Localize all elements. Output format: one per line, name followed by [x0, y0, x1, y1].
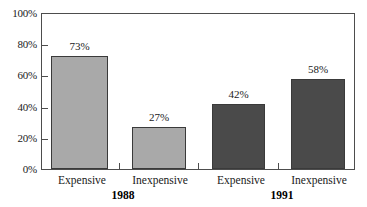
plot-area: 73% 27% 42% 58%: [42, 14, 354, 169]
bar-1988-expensive[interactable]: [51, 56, 108, 169]
category-label-1991-expensive: Expensive: [201, 174, 281, 187]
bar-value-label-1988-inexpensive: 27%: [132, 112, 186, 123]
bar-value-label-1988-expensive: 73%: [51, 41, 108, 52]
y-axis-tick-label-80: 80%: [0, 39, 37, 50]
category-label-1988-expensive: Expensive: [42, 174, 122, 187]
y-axis-tick-label-20: 20%: [0, 133, 37, 144]
plot-frame: 73% 27% 42% 58%: [41, 13, 355, 170]
y-axis-tick-mark-80: [42, 45, 48, 46]
category-separator-tick-2: [198, 163, 199, 169]
y-axis-tick-label-40: 40%: [0, 102, 37, 113]
bar-chart: 100% 80% 60% 40% 20% 0% 73% 27% 42% 58%: [0, 0, 367, 207]
category-label-1991-inexpensive: Inexpensive: [276, 174, 362, 187]
y-axis-tick-mark-60: [42, 76, 48, 77]
bar-value-label-1991-inexpensive: 58%: [291, 64, 345, 75]
category-label-1988-inexpensive: Inexpensive: [117, 174, 203, 187]
bar-1991-expensive[interactable]: [212, 104, 265, 169]
group-label-1991: 1991: [239, 189, 325, 202]
bar-value-label-1991-expensive: 42%: [212, 89, 265, 100]
bar-1988-inexpensive[interactable]: [132, 127, 186, 169]
category-separator-tick-3: [278, 163, 279, 169]
y-axis-tick-mark-20: [42, 139, 48, 140]
bar-1991-inexpensive[interactable]: [291, 79, 345, 169]
y-axis-tick-mark-40: [42, 108, 48, 109]
y-axis-tick-label-0: 0%: [0, 164, 37, 175]
group-label-1988: 1988: [80, 189, 166, 202]
y-axis-tick-label-100: 100%: [0, 8, 37, 19]
y-axis-tick-label-60: 60%: [0, 70, 37, 81]
category-separator-tick-1: [119, 163, 120, 169]
